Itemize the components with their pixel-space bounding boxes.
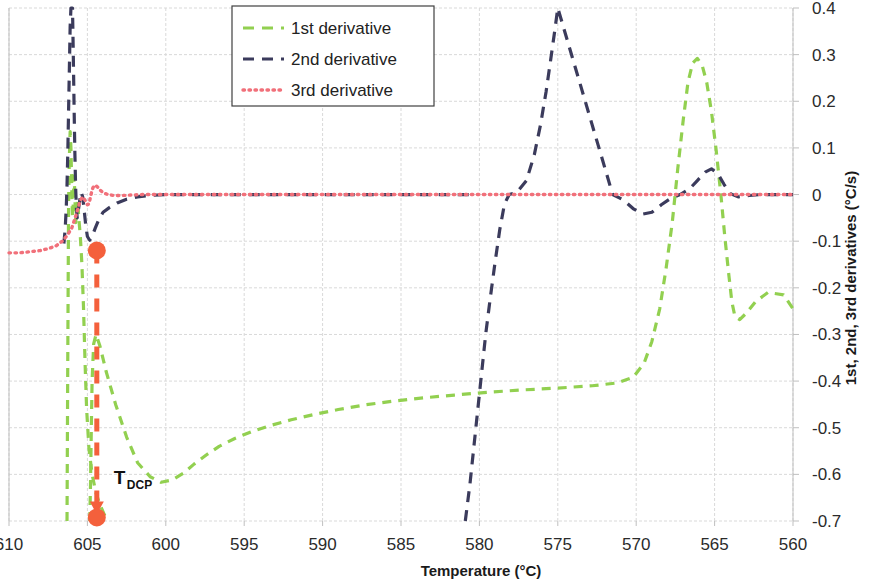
tdcp-label-main: T	[114, 467, 126, 488]
y-axis-title: 1st, 2nd, 3rd derivatives (°C/s)	[842, 171, 859, 385]
legend-label-3[interactable]: 3rd derivative	[291, 81, 393, 100]
y-tick-label: -0.6	[812, 465, 841, 484]
x-tick-label: 580	[465, 535, 493, 554]
y-tick-label: 0.2	[812, 92, 836, 111]
legend-label-2[interactable]: 2nd derivative	[291, 50, 397, 69]
y-tick-label: -0.5	[812, 419, 841, 438]
chart-background	[0, 0, 872, 584]
tdcp-bottom-dot	[88, 508, 106, 526]
chart-canvas: TDCP 610605600595590585580575570565560 0…	[0, 0, 872, 584]
x-tick-label: 570	[622, 535, 650, 554]
tdcp-label-sub: DCP	[127, 478, 152, 492]
x-tick-label: 585	[387, 535, 415, 554]
legend-label-1[interactable]: 1st derivative	[291, 19, 391, 38]
x-axis-title: Temperature (°C)	[421, 562, 542, 579]
y-tick-label: 0.3	[812, 46, 836, 65]
x-tick-label: 575	[544, 535, 572, 554]
x-tick-label: 610	[0, 535, 23, 554]
y-tick-label: -0.3	[812, 325, 841, 344]
derivative-chart: TDCP 610605600595590585580575570565560 0…	[0, 0, 872, 584]
y-tick-label: 0.4	[812, 0, 836, 18]
x-tick-label: 600	[152, 535, 180, 554]
y-tick-label: -0.1	[812, 232, 841, 251]
x-tick-label: 595	[230, 535, 258, 554]
x-tick-label: 590	[308, 535, 336, 554]
y-tick-label: 0.1	[812, 139, 836, 158]
y-tick-label: 0	[812, 186, 821, 205]
x-tick-label: 605	[73, 535, 101, 554]
x-tick-label: 560	[779, 535, 807, 554]
y-tick-label: -0.4	[812, 372, 841, 391]
tdcp-top-dot	[88, 242, 106, 260]
y-tick-label: -0.7	[812, 512, 841, 531]
x-tick-label: 565	[700, 535, 728, 554]
y-tick-label: -0.2	[812, 279, 841, 298]
legend[interactable]: 1st derivative2nd derivative3rd derivati…	[232, 6, 434, 106]
